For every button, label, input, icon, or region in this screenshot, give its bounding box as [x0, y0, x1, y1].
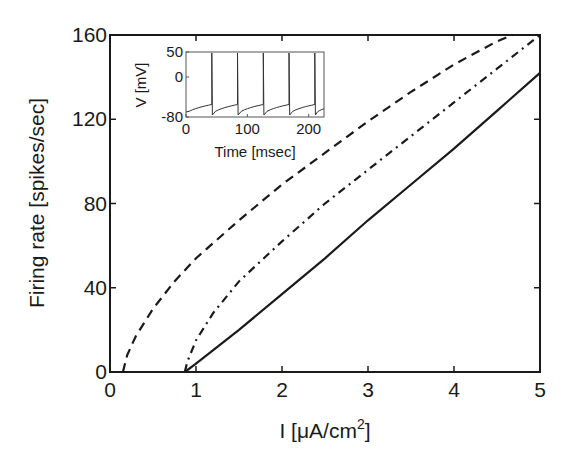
inset-voltage-trace: 0100200-80050 Time [msec] V [mV] — [132, 43, 324, 160]
x-tick-label: 2 — [276, 378, 288, 401]
inset-x-tick-label: 0 — [182, 120, 190, 137]
x-tick-label: 1 — [190, 378, 202, 401]
y-tick-label: 0 — [95, 360, 107, 383]
inset-x-tick-label: 200 — [296, 120, 321, 137]
y-tick-label: 40 — [84, 276, 107, 299]
x-axis-label: I [μA/cm2] — [279, 416, 370, 442]
firing-rate-chart: 01234504080120160 I [μA/cm2] Firing rate… — [0, 0, 566, 457]
y-tick-label: 80 — [84, 192, 107, 215]
inset-y-tick-label: 0 — [175, 68, 183, 85]
inset-y-tick-label: -80 — [161, 108, 183, 125]
y-tick-label: 120 — [72, 107, 107, 130]
inset-y-label: V [mV] — [132, 62, 149, 107]
data-series — [123, 35, 540, 372]
inset-x-label: Time [msec] — [214, 143, 295, 160]
inset-y-tick-label: 50 — [166, 43, 183, 60]
x-tick-label: 4 — [448, 378, 460, 401]
x-tick-label: 3 — [362, 378, 374, 401]
x-tick-label: 5 — [534, 378, 546, 401]
inset-x-tick-label: 100 — [235, 120, 260, 137]
y-tick-label: 160 — [72, 23, 107, 46]
y-axis-label: Firing rate [spikes/sec] — [25, 98, 48, 308]
series-solid — [185, 73, 540, 372]
